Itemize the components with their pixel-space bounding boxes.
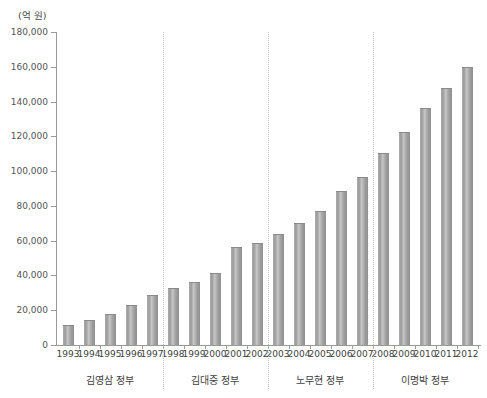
y-axis-tick-mark: [51, 310, 56, 311]
y-axis-tick-mark: [51, 32, 56, 33]
bar: [210, 273, 221, 345]
bar: [378, 153, 389, 345]
bar: [63, 325, 74, 345]
group-separator: [373, 32, 375, 389]
bar: [147, 295, 158, 345]
y-axis-tick-label: 60,000: [17, 236, 49, 246]
y-axis-tick-label: 40,000: [17, 270, 49, 280]
bar: [126, 305, 137, 345]
y-axis-tick-mark: [51, 67, 56, 68]
group-separator: [163, 32, 165, 389]
y-axis-tick-mark: [51, 241, 56, 242]
bar: [84, 320, 95, 345]
chart-footnote: [300, 388, 487, 397]
bar: [252, 243, 263, 345]
bar: [273, 234, 284, 345]
bar: [105, 314, 116, 345]
bar: [399, 132, 410, 345]
y-axis-tick-mark: [51, 102, 56, 103]
bar: [231, 247, 242, 345]
bar: [357, 177, 368, 345]
bar: [168, 288, 179, 345]
y-axis-tick-mark: [51, 345, 56, 346]
y-axis-tick-label: 180,000: [11, 27, 48, 37]
group-label: 이명박 정부: [370, 372, 480, 387]
bar: [420, 108, 431, 345]
group-label: 김대중 정부: [160, 372, 270, 387]
bar: [462, 67, 473, 345]
bar: [336, 191, 347, 345]
y-axis-tick-label: 140,000: [11, 97, 48, 107]
y-axis-tick-label: 100,000: [11, 166, 48, 176]
y-axis-tick-label: 120,000: [11, 131, 48, 141]
bar: [294, 223, 305, 345]
y-axis-tick-mark: [51, 171, 56, 172]
y-axis-tick-mark: [51, 136, 56, 137]
bar: [189, 282, 200, 345]
group-label: 노무현 정부: [265, 372, 375, 387]
group-separator: [268, 32, 270, 389]
y-axis-tick-label: 160,000: [11, 62, 48, 72]
y-axis-tick-label: 80,000: [17, 201, 49, 211]
y-axis-tick-mark: [51, 275, 56, 276]
y-axis-tick-label: 0: [42, 340, 48, 350]
bar-chart: (억 원) 020,00040,00060,00080,000100,00012…: [0, 0, 487, 398]
bar: [315, 211, 326, 345]
x-axis-label: 2012: [452, 349, 482, 359]
group-label: 김영삼 정부: [55, 372, 165, 387]
y-axis-tick-mark: [51, 206, 56, 207]
y-axis-tick-label: 20,000: [17, 305, 49, 315]
bar: [441, 88, 452, 345]
y-axis-unit-label: (억 원): [18, 8, 46, 22]
